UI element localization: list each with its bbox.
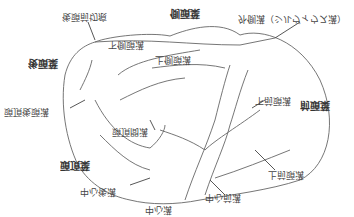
label-intraparietal-sulcus: 頭頂間溝: [112, 127, 148, 137]
label-inferior-temporal-sulcus: 下側頭溝: [108, 40, 144, 50]
label-postcentral-sulcus: 中心後溝: [80, 187, 116, 197]
label-precentral-sulcus: 中心前溝: [205, 193, 241, 203]
label-superior-frontal-sulcus: 上前頭溝: [268, 170, 304, 180]
label-lateral-sulcus: 外側溝（シルヴィウス溝）: [238, 14, 346, 24]
label-superior-temporal-sulcus: 上側頭溝: [155, 55, 191, 65]
label-preoccipital-notch: 後頭前切痕: [62, 12, 107, 22]
label-parietal-lobe: 頭頂葉: [60, 160, 90, 170]
label-occipital-lobe: 後頭葉: [28, 58, 58, 68]
label-parieto-occipital-sulcus: 頭頂後頭溝: [4, 107, 49, 117]
label-central-sulcus: 中心溝: [145, 205, 172, 215]
label-inferior-frontal-sulcus: 下前頭溝: [255, 96, 291, 106]
brain-diagram: 後頭前切痕 下側頭溝 上側頭溝 外側溝（シルヴィウス溝） 下前頭溝 頭頂後頭溝 …: [0, 0, 354, 217]
label-frontal-lobe: 前頭葉: [300, 100, 330, 110]
label-temporal-lobe: 側頭葉: [170, 8, 200, 18]
